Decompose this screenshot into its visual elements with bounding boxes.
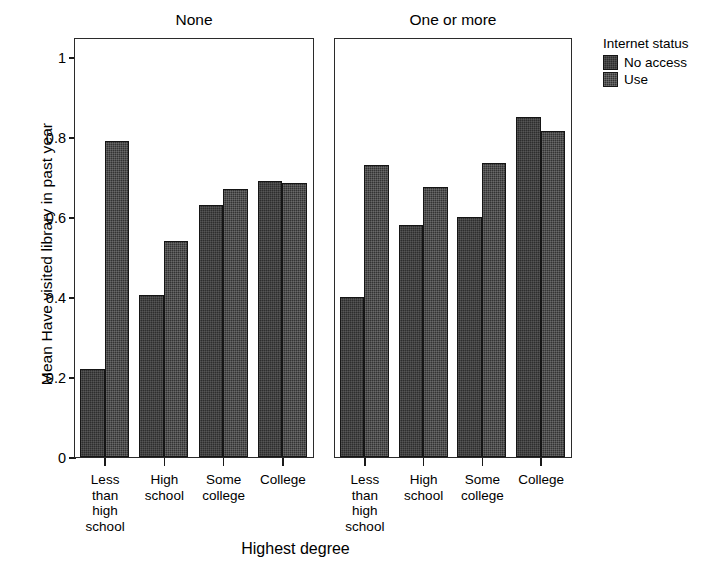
legend-item-no-access[interactable]: No access (603, 55, 689, 70)
x-axis-tick (282, 458, 284, 466)
bar-no-access[interactable] (258, 181, 283, 457)
plot-area-one-or-more (335, 39, 571, 457)
legend-item-use[interactable]: Use (603, 72, 689, 87)
x-axis-tick (482, 458, 484, 466)
panel-title-none: None (74, 11, 314, 29)
legend-title: Internet status (603, 36, 689, 51)
plot-area-none (75, 39, 313, 457)
bar-use[interactable] (164, 241, 189, 457)
bar-no-access[interactable] (199, 205, 224, 457)
x-axis-tick (540, 458, 542, 466)
x-axis-tick (223, 458, 225, 466)
legend: Internet status No access Use (603, 36, 689, 89)
x-axis-tick-label: College (247, 472, 319, 488)
bar-use[interactable] (541, 131, 565, 457)
bar-use[interactable] (282, 183, 307, 457)
legend-label-use: Use (624, 72, 648, 87)
y-axis-title: Mean Have visited library in past year (38, 44, 56, 464)
y-axis-tick-label: 0.2 (46, 371, 66, 386)
y-axis-tick-label: 0.8 (46, 131, 66, 146)
bar-no-access[interactable] (80, 369, 105, 457)
panel-title-one-or-more: One or more (334, 11, 572, 29)
bar-use[interactable] (364, 165, 388, 457)
bar-no-access[interactable] (457, 217, 481, 457)
legend-swatch-no-access-icon (603, 55, 618, 70)
bar-use[interactable] (223, 189, 248, 457)
bar-no-access[interactable] (139, 295, 164, 457)
x-axis-tick (164, 458, 166, 466)
y-axis-tick-label: 1 (58, 51, 66, 66)
bar-no-access[interactable] (399, 225, 423, 457)
bar-no-access[interactable] (340, 297, 364, 457)
y-axis-tick-label: 0.4 (46, 291, 66, 306)
chart-canvas: Mean Have visited library in past year 0… (0, 0, 715, 583)
bar-use[interactable] (105, 141, 130, 457)
bar-no-access[interactable] (516, 117, 540, 457)
legend-label-no-access: No access (624, 55, 687, 70)
x-axis-title: Highest degree (0, 540, 653, 558)
x-axis-tick-label: College (505, 472, 577, 488)
panel-one-or-more (334, 38, 572, 458)
x-axis-tick (364, 458, 366, 466)
panel-none (74, 38, 314, 458)
y-axis-tick-label: 0.6 (46, 211, 66, 226)
y-axis-tick-label: 0 (58, 451, 66, 466)
bar-use[interactable] (482, 163, 506, 457)
x-axis-tick (104, 458, 106, 466)
bar-use[interactable] (423, 187, 447, 457)
x-axis-tick (423, 458, 425, 466)
legend-swatch-use-icon (603, 72, 618, 87)
